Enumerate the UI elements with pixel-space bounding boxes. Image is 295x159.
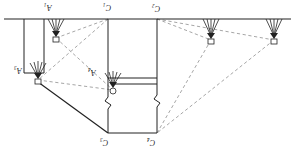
- sightline-right1-c4: [157, 40, 211, 133]
- engineering-section-diagram: A₁ C₁ C₂ A₃ A₄ C₃ C₄: [0, 0, 295, 159]
- anchor-symbol-a1: [48, 19, 64, 42]
- anchor-symbol-right-2: [266, 19, 282, 44]
- point-label-c4: C₄: [147, 138, 155, 146]
- sightline-c1-a1: [56, 19, 108, 38]
- break-symbol-left: [105, 97, 111, 109]
- sightline-c2-right2: [157, 19, 274, 40]
- anchor-wedge-a1: [52, 31, 60, 37]
- anchor-wedge-a4: [109, 82, 117, 88]
- anchor-wedge-right-1: [207, 33, 215, 39]
- anchor-wedge-right-2: [270, 33, 278, 39]
- anchor-plate-right-1: [208, 39, 214, 44]
- point-label-c1: C₁: [103, 3, 111, 11]
- anchor-label-a1: A₁: [44, 3, 52, 11]
- sightline-a1-a4: [56, 38, 113, 90]
- break-symbol-right: [154, 95, 160, 107]
- point-label-c2: C₂: [152, 4, 160, 12]
- sightline-a3-a4: [38, 80, 113, 90]
- anchor-symbol-right-1: [203, 19, 219, 44]
- anchor-label-a3: A₃: [14, 66, 22, 74]
- dashed-sightlines-group: [38, 19, 274, 133]
- sightline-c1-a3: [38, 19, 108, 80]
- anchor-plate-a1: [53, 37, 59, 42]
- anchor-plate-right-2: [271, 39, 277, 44]
- anchor-label-a4: A₄: [88, 68, 96, 76]
- anchor-wedge-a3: [34, 73, 42, 79]
- sightline-c2-right1: [157, 19, 211, 40]
- anchor-plate-a4: [110, 88, 116, 94]
- sightline-right2-c4: [157, 40, 274, 133]
- diagram-canvas: [0, 0, 295, 159]
- slope-batter-line: [38, 82, 108, 133]
- anchor-symbol-a4: [105, 71, 121, 94]
- point-label-c3: C₃: [100, 138, 108, 146]
- anchor-plate-a3: [35, 79, 41, 84]
